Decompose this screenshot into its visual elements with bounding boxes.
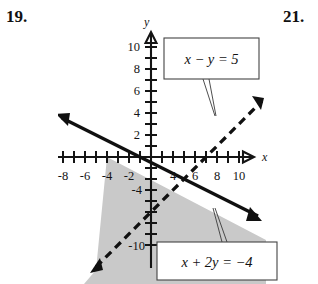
x-tick-label-8: 8 xyxy=(214,169,220,183)
y-tick-label-2: 2 xyxy=(134,128,140,142)
solid-line-arrow-left xyxy=(56,113,70,126)
x-tick-label-neg2: -2 xyxy=(124,169,134,183)
exercise-number-right: 21. xyxy=(283,8,304,25)
callout-solid-text: x + 2y = −4 xyxy=(180,254,252,270)
callout-dashed-text: x − y = 5 xyxy=(183,51,238,67)
x-tick-label-6: 6 xyxy=(192,169,198,183)
coordinate-plane: x y 10 8 6 4 2 -4 -10 -8 -6 -4 -2 4 6 8 … xyxy=(0,0,318,284)
y-tick-label-neg10: -10 xyxy=(128,239,145,253)
solid-line-arrow-right xyxy=(246,207,262,221)
x-tick-label-neg4: -4 xyxy=(102,169,113,183)
callout-dashed-line-equation: x − y = 5 xyxy=(164,38,259,79)
x-axis-label: x xyxy=(261,150,268,164)
x-tick-label-4: 4 xyxy=(170,169,177,183)
y-tick-label-4: 4 xyxy=(134,106,141,120)
y-tick-label-neg4: -4 xyxy=(132,183,143,197)
exercise-number-left: 19. xyxy=(6,8,27,25)
callout-leader-dashed xyxy=(203,79,216,116)
y-tick-label-8: 8 xyxy=(134,62,140,76)
x-tick-label-10: 10 xyxy=(233,169,246,183)
x-tick-label-neg8: -8 xyxy=(58,169,68,183)
graph-figure: 19. 21. xyxy=(0,0,318,284)
callout-solid-line-equation: x + 2y = −4 xyxy=(157,242,277,280)
y-tick-label-6: 6 xyxy=(134,84,140,98)
dashed-line-arrow-upper xyxy=(252,96,264,110)
y-axis-label: y xyxy=(143,15,150,29)
x-tick-label-neg6: -6 xyxy=(80,169,90,183)
y-tick-label-10: 10 xyxy=(128,40,141,54)
x-axis xyxy=(58,151,254,163)
